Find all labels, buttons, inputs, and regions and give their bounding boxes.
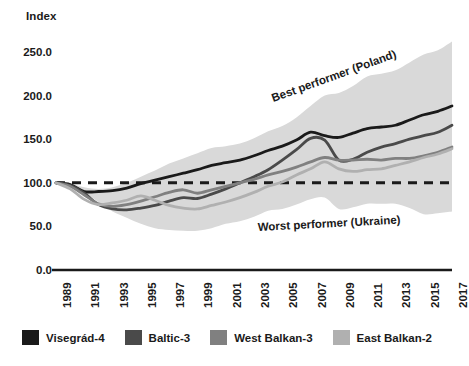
x-tick-2015: 2015 (429, 282, 441, 308)
legend-entry-east-balkan-2[interactable]: East Balkan-2 (333, 330, 432, 345)
legend-label-baltic-3: Baltic-3 (149, 332, 191, 344)
legend-swatch-east-balkan-2 (333, 330, 350, 345)
x-tick-1989: 1989 (61, 282, 73, 308)
legend-entry-baltic-3[interactable]: Baltic-3 (125, 330, 191, 345)
x-tick-1999: 1999 (202, 282, 214, 308)
legend-swatch-baltic-3 (125, 330, 142, 345)
legend-label-west-balkan-3: West Balkan-3 (234, 332, 312, 344)
x-tick-1991: 1991 (89, 282, 101, 308)
x-tick-1995: 1995 (146, 282, 158, 308)
x-tick-1993: 1993 (118, 282, 130, 308)
x-tick-2017: 2017 (457, 282, 469, 308)
x-tick-2005: 2005 (287, 282, 299, 308)
x-tick-2001: 2001 (231, 282, 243, 308)
x-tick-1997: 1997 (174, 282, 186, 308)
x-tick-2003: 2003 (259, 282, 271, 308)
x-tick-2007: 2007 (316, 282, 328, 308)
x-tick-2013: 2013 (400, 282, 412, 308)
chart-legend: Visegrád-4Baltic-3West Balkan-3East Balk… (22, 330, 452, 345)
x-tick-2011: 2011 (372, 283, 384, 308)
legend-swatch-visegr-d-4 (22, 330, 39, 345)
legend-label-visegr-d-4: Visegrád-4 (46, 332, 105, 344)
legend-swatch-west-balkan-3 (210, 330, 227, 345)
legend-label-east-balkan-2: East Balkan-2 (357, 332, 432, 344)
legend-entry-west-balkan-3[interactable]: West Balkan-3 (210, 330, 312, 345)
x-tick-2009: 2009 (344, 282, 356, 308)
legend-entry-visegr-d-4[interactable]: Visegrád-4 (22, 330, 105, 345)
